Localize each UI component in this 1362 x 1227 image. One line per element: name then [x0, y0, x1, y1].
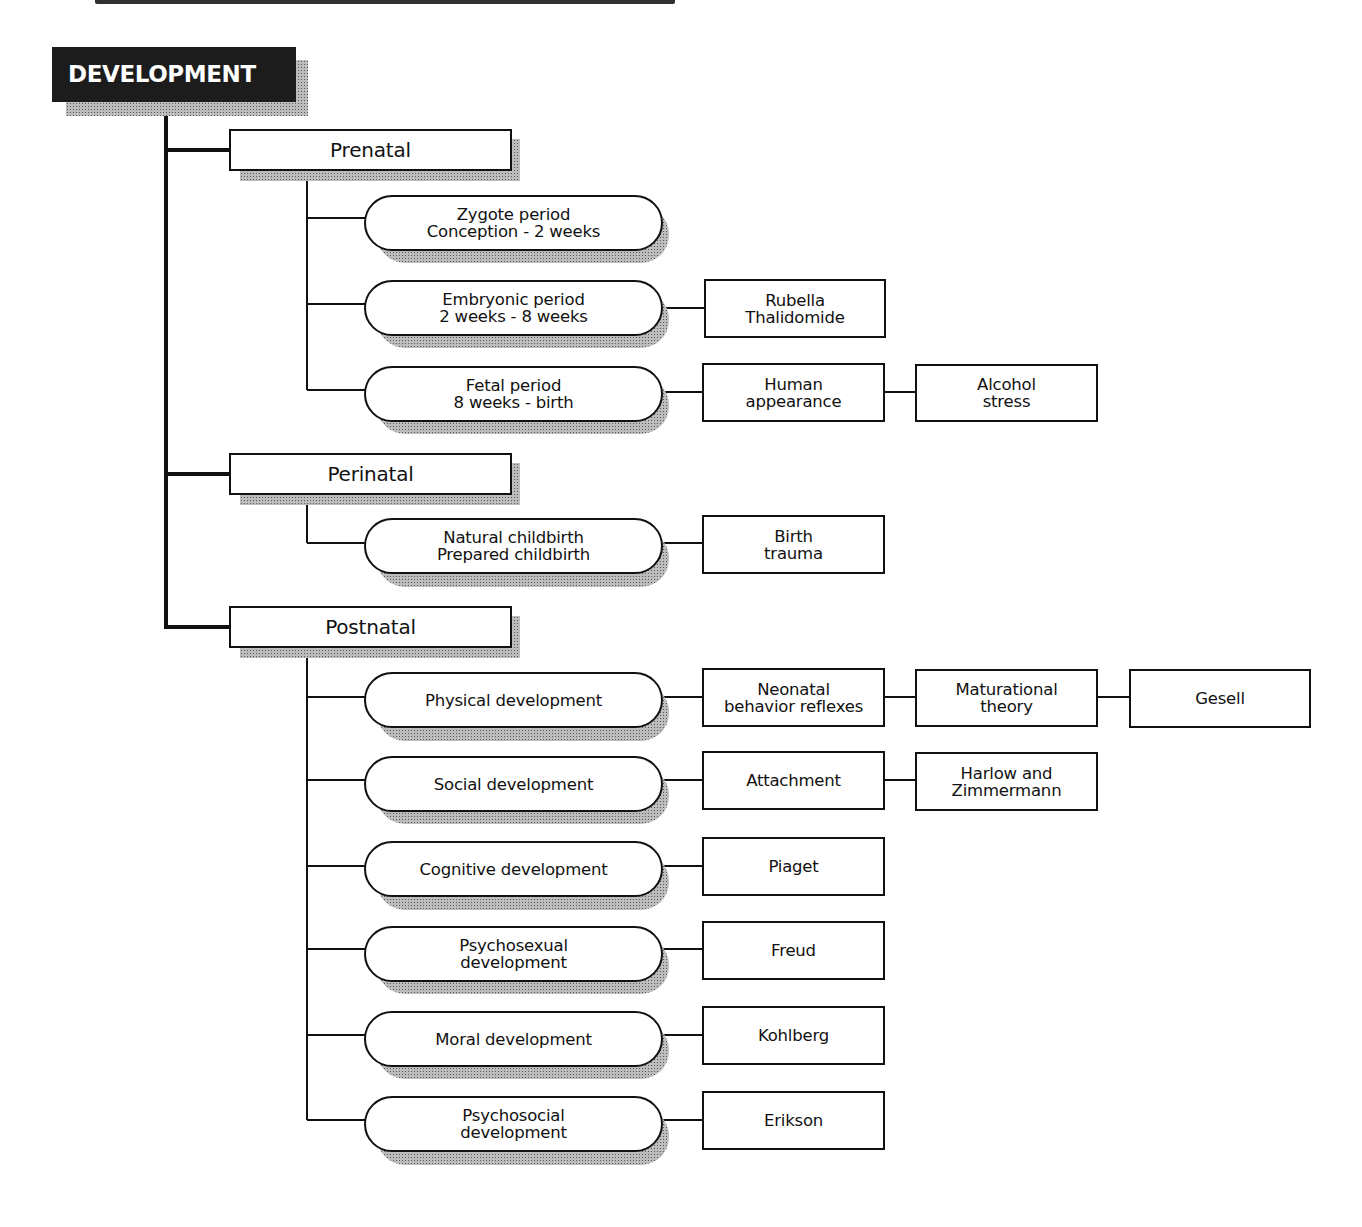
factor-kohlberg: Kohlberg: [702, 1006, 885, 1065]
period-fetal: Fetal period 8 weeks - birth: [364, 366, 663, 422]
factor-maturational-theory: Maturational theory: [915, 669, 1098, 727]
period-childbirth: Natural childbirth Prepared childbirth: [364, 518, 663, 574]
factor-neonatal-reflexes: Neonatal behavior reflexes: [702, 668, 885, 727]
period-psychosocial-development: Psychosocial development: [364, 1096, 663, 1152]
factor-alcohol-stress: Alcohol stress: [915, 364, 1098, 422]
factor-piaget: Piaget: [702, 837, 885, 896]
development-diagram: DEVELOPMENT Prenatal Perinatal Postnatal…: [0, 0, 1362, 1227]
connector-lines: [0, 0, 1362, 1227]
period-moral-development: Moral development: [364, 1011, 663, 1067]
factor-erikson: Erikson: [702, 1091, 885, 1150]
stage-postnatal: Postnatal: [229, 606, 512, 648]
period-physical-development: Physical development: [364, 672, 663, 728]
factor-freud: Freud: [702, 921, 885, 980]
stage-perinatal: Perinatal: [229, 453, 512, 495]
period-social-development: Social development: [364, 756, 663, 812]
factor-gesell: Gesell: [1129, 669, 1311, 728]
factor-harlow-zimmermann: Harlow and Zimmermann: [915, 752, 1098, 811]
period-embryonic: Embryonic period 2 weeks - 8 weeks: [364, 280, 663, 336]
factor-attachment: Attachment: [702, 751, 885, 810]
root-node-development: DEVELOPMENT: [52, 47, 296, 102]
factor-human-appearance: Human appearance: [702, 363, 885, 422]
stage-prenatal: Prenatal: [229, 129, 512, 171]
period-cognitive-development: Cognitive development: [364, 841, 663, 897]
period-psychosexual-development: Psychosexual development: [364, 926, 663, 982]
factor-rubella-thalidomide: Rubella Thalidomide: [704, 279, 886, 338]
period-zygote: Zygote period Conception - 2 weeks: [364, 195, 663, 251]
factor-birth-trauma: Birth trauma: [702, 515, 885, 574]
